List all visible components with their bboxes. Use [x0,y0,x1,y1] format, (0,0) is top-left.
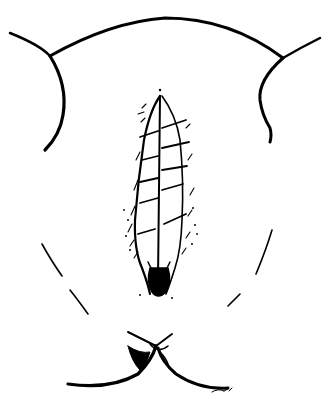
incision-stippling [128,104,194,258]
incision [135,89,183,294]
upper-contour [10,18,320,150]
perineal-fold [68,332,228,388]
illustration-canvas: sutured midline incision (perineal/vulva… [0,0,333,408]
surgical-illustration [0,0,333,408]
